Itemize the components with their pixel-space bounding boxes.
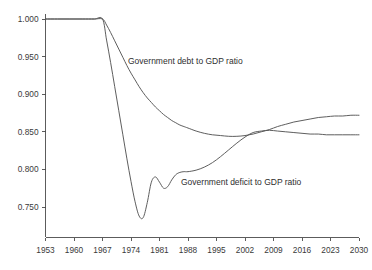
y-axis-ticks: 0.7500.8000.8500.9000.9501.000 <box>18 14 46 212</box>
data-series-group <box>46 17 360 218</box>
x-tick-label: 1995 <box>207 245 226 255</box>
y-tick-label: 0.750 <box>18 202 39 212</box>
x-tick-label: 1988 <box>179 245 198 255</box>
x-tick-label: 2016 <box>293 245 312 255</box>
deficit-ratio-label: Government deficit to GDP ratio <box>181 177 302 187</box>
x-tick-label: 1967 <box>93 245 112 255</box>
chart-container: 0.7500.8000.8500.9000.9501.000 195319601… <box>0 0 372 270</box>
x-tick-label: 2002 <box>236 245 255 255</box>
x-tick-label: 2030 <box>350 245 369 255</box>
y-tick-label: 0.950 <box>18 52 39 62</box>
deficit-ratio-curve <box>46 17 360 218</box>
x-axis: 1953196019671974198119881995200220092016… <box>36 238 368 256</box>
x-tick-label: 2009 <box>264 245 283 255</box>
x-tick-label: 1960 <box>65 245 84 255</box>
series-annotations: Government debt to GDP ratioGovernment d… <box>128 56 302 187</box>
y-tick-label: 0.850 <box>18 127 39 137</box>
debt-ratio-curve <box>46 19 360 137</box>
x-tick-label: 1953 <box>36 245 55 255</box>
line-chart: 0.7500.8000.8500.9000.9501.000 195319601… <box>0 0 372 270</box>
y-tick-label: 0.900 <box>18 89 39 99</box>
y-tick-label: 1.000 <box>18 14 39 24</box>
x-tick-label: 1974 <box>122 245 141 255</box>
y-axis: 0.7500.8000.8500.9000.9501.000 <box>18 14 46 237</box>
y-tick-label: 0.800 <box>18 164 39 174</box>
x-axis-ticks: 1953196019671974198119881995200220092016… <box>36 238 368 256</box>
x-tick-label: 1981 <box>150 245 169 255</box>
debt-ratio-label: Government debt to GDP ratio <box>128 56 243 66</box>
x-tick-label: 2023 <box>321 245 340 255</box>
